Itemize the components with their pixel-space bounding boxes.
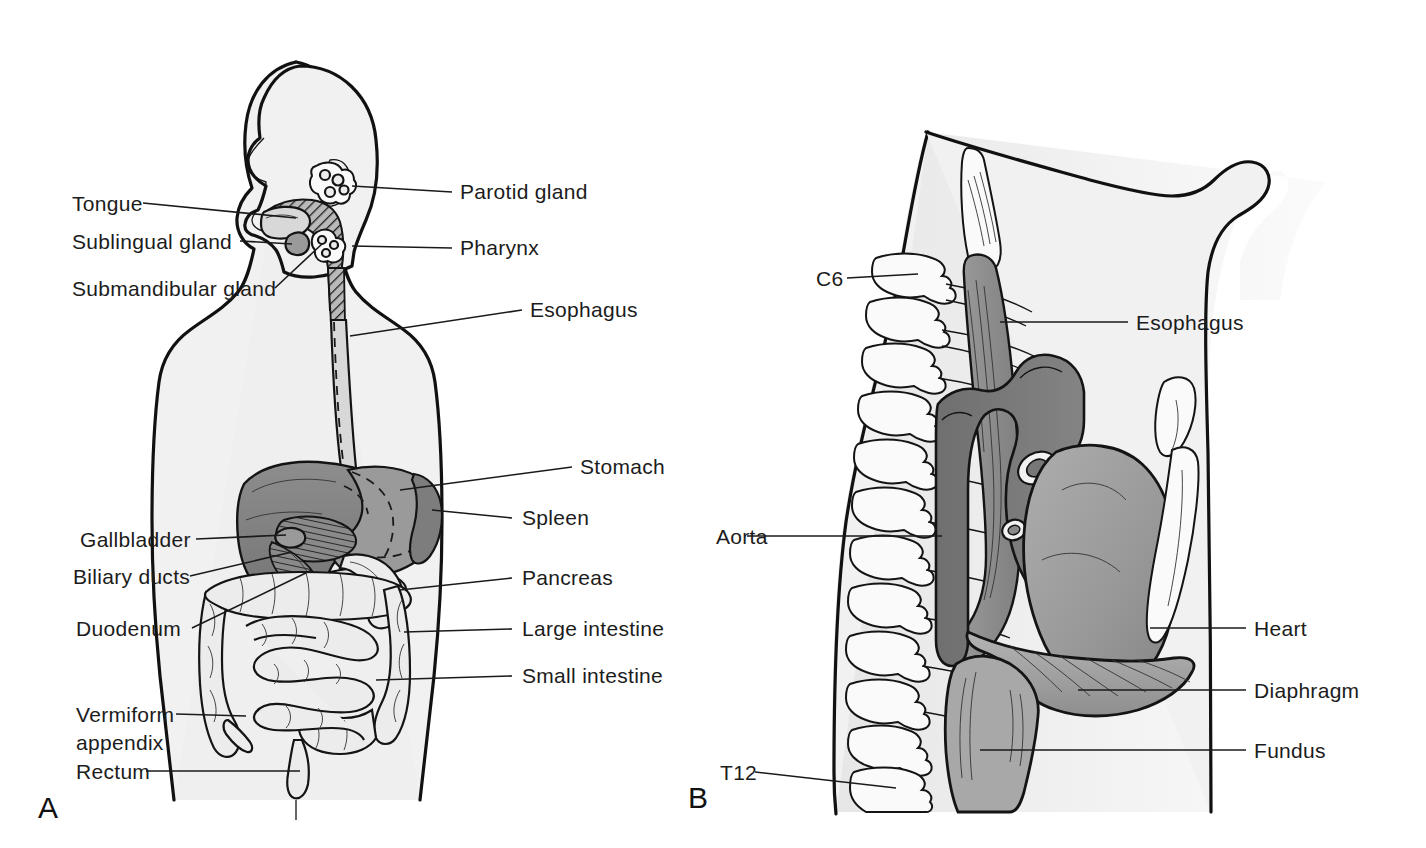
label-aorta: Aorta [716,525,768,548]
label-c6: C6 [816,267,843,290]
label-submandibular-gland: Submandibular gland [72,277,276,300]
label-biliary-ducts: Biliary ducts [73,565,190,588]
panel-a-digestive-system: Tongue Sublingual gland Submandibular gl… [0,0,700,848]
rectum-shape [287,740,309,820]
label-diaphragm: Diaphragm [1254,679,1359,702]
label-pharynx: Pharynx [460,236,539,259]
label-large-intestine: Large intestine [522,617,664,640]
label-t12: T12 [720,761,757,784]
label-heart: Heart [1254,617,1307,640]
label-small-intestine: Small intestine [522,664,663,687]
label-pancreas: Pancreas [522,566,613,589]
fundus-shape [945,656,1038,812]
label-vermiform-appendix: Vermiform [76,703,174,726]
label-vermiform-appendix-line2: appendix [76,731,164,754]
label-duodenum: Duodenum [76,617,181,640]
label-sublingual-gland: Sublingual gland [72,230,232,253]
label-stomach: Stomach [580,455,665,478]
panel-b-thoracic-esophagus: C6 Aorta T12 Esophagus Heart Diaphragm F… [680,0,1426,848]
anatomy-figure: Tongue Sublingual gland Submandibular gl… [0,0,1426,848]
label-gallbladder: Gallbladder [80,528,191,551]
label-tongue: Tongue [72,192,143,215]
label-esophagus-a: Esophagus [530,298,638,321]
panel-letter-b: B [688,781,708,814]
label-rectum: Rectum [76,760,150,783]
label-fundus: Fundus [1254,739,1326,762]
panel-letter-a: A [38,791,58,824]
label-spleen: Spleen [522,506,589,529]
label-parotid-gland: Parotid gland [460,180,588,203]
label-esophagus-b: Esophagus [1136,311,1244,334]
